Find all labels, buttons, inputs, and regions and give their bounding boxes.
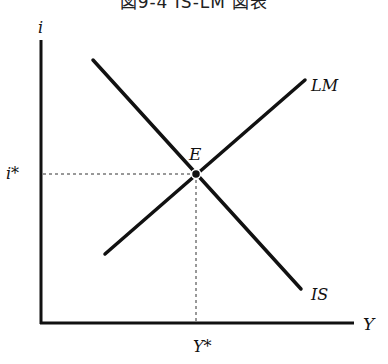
equilibrium-point — [192, 170, 201, 179]
x-axis-label: Y — [363, 316, 374, 333]
i-star-label: i* — [6, 166, 19, 182]
lm-label: LM — [311, 78, 338, 94]
equilibrium-label: E — [189, 146, 201, 163]
y-axis-label: i — [38, 20, 43, 36]
is-lm-diagram — [0, 0, 388, 364]
is-label: IS — [311, 287, 328, 303]
y-star-label: Y* — [193, 339, 212, 355]
